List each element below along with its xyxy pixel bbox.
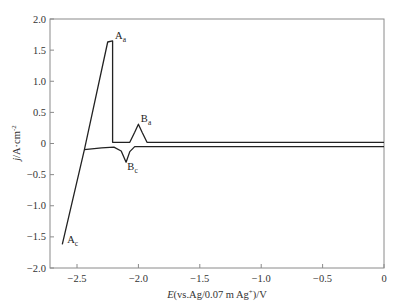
plot-frame [50,19,384,268]
y-tick-label: −1.5 [27,231,46,242]
peak-label: Aa [115,30,127,44]
y-tick-label: 1.0 [33,76,46,87]
y-tick-label: 2.0 [33,14,46,25]
y-tick-label: −1.0 [27,200,46,211]
peak-label: Ac [67,234,79,248]
y-tick-label: 0 [41,138,46,149]
plot-border [50,19,384,268]
x-axis-title: E(vs.Ag/0.07 m Ag+)/V [166,288,267,301]
x-axis: −2.5−2.0−1.5−1.0−0.50 [67,264,386,284]
x-tick-label: −0.5 [313,273,332,284]
y-axis-title: j/A·cm-2 [10,125,22,163]
data-series [62,41,384,245]
x-tick-label: 0 [381,273,386,284]
y-tick-label: 0.5 [33,107,46,118]
x-tick-label: −1.5 [190,273,209,284]
x-tick-label: −2.5 [67,273,86,284]
y-tick-label: −0.5 [27,169,46,180]
y-tick-label: −2.0 [27,263,46,274]
x-tick-label: −2.0 [129,273,148,284]
peak-label: Bc [127,161,138,175]
x-tick-label: −1.0 [252,273,271,284]
cv-chart: 2.01.51.00.50−0.5−1.0−1.5−2.0 −2.5−2.0−1… [0,0,403,307]
peak-annotations: AaBaBcAc [67,30,152,248]
peak-label: Ba [141,113,152,127]
cv-curve [62,41,384,245]
y-tick-label: 1.5 [33,45,46,56]
